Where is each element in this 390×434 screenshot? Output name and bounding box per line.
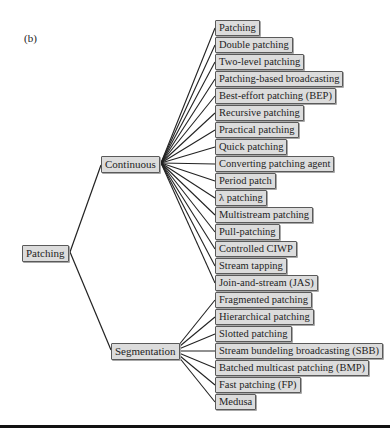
tree-edge: [161, 28, 215, 163]
tree-edge: [174, 351, 215, 385]
leaf-node: Recursive patching: [215, 105, 304, 121]
leaf-node: Best-effort patching (BEP): [215, 88, 336, 104]
tree-edge: [174, 300, 215, 351]
patching-taxonomy-diagram: (b) Patching Continuous Segmentation Pat…: [0, 0, 390, 434]
leaf-node: Stream tapping: [215, 258, 287, 274]
leaf-node: Period patch: [215, 173, 276, 189]
leaf-node: Medusa: [215, 394, 256, 410]
leaf-node: Pull-patching: [215, 224, 280, 240]
leaf-node: Patching: [215, 20, 260, 36]
tree-edge: [161, 62, 215, 163]
leaf-node: Hierarchical patching: [215, 309, 314, 325]
leaf-node: Double patching: [215, 37, 293, 53]
tree-edge: [70, 165, 101, 252]
branch-node-segmentation: Segmentation: [111, 343, 180, 360]
leaf-node: Converting patching agent: [215, 156, 334, 172]
branch-node-continuous: Continuous: [101, 156, 160, 173]
leaf-node: Fragmented patching: [215, 292, 312, 308]
leaf-node: Slotted patching: [215, 326, 292, 342]
tree-edge: [174, 351, 215, 402]
leaf-node: Multistream patching: [215, 207, 313, 223]
leaf-node: Join-and-stream (JAS): [215, 275, 318, 291]
leaf-node: Quick patching: [215, 139, 287, 155]
root-node-patching: Patching: [22, 245, 69, 262]
leaf-node: Patching-based broadcasting: [215, 71, 343, 87]
leaf-node: Batched multicast patching (BMP): [215, 360, 369, 376]
bottom-rule: [0, 425, 390, 428]
leaf-node: λ patching: [215, 190, 267, 206]
figure-label: (b): [24, 32, 37, 44]
tree-edge: [161, 163, 215, 249]
tree-edge: [161, 163, 215, 232]
leaf-node: Stream bundeling broadcasting (SBB): [215, 343, 383, 359]
leaf-node: Fast patching (FP): [215, 377, 301, 393]
tree-edge: [70, 252, 111, 350]
tree-edge: [161, 45, 215, 163]
tree-edge: [161, 163, 215, 164]
tree-edge: [174, 317, 215, 351]
leaf-node: Controlled CIWP: [215, 241, 297, 257]
tree-edge: [161, 163, 215, 215]
leaf-node: Two-level patching: [215, 54, 304, 70]
tree-edge: [161, 96, 215, 163]
leaf-node: Practical patching: [215, 122, 299, 138]
